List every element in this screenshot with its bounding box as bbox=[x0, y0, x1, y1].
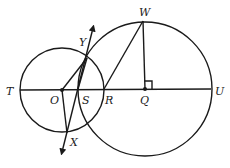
label-w: W bbox=[139, 6, 152, 19]
label-s: S bbox=[82, 94, 90, 107]
label-x: X bbox=[69, 136, 79, 149]
label-q: Q bbox=[140, 94, 149, 107]
label-u: U bbox=[215, 85, 225, 98]
line-tu bbox=[20, 89, 211, 90]
label-o: O bbox=[50, 94, 59, 107]
point-o bbox=[60, 88, 64, 92]
geometry-diagram: T O S R Q U W Y X bbox=[0, 0, 230, 168]
label-r: R bbox=[104, 94, 113, 107]
segment-ox bbox=[62, 90, 67, 133]
label-t: T bbox=[6, 85, 15, 98]
segment-oy bbox=[62, 58, 87, 90]
segment-wq bbox=[143, 21, 145, 89]
point-q bbox=[143, 87, 147, 91]
label-y: Y bbox=[79, 36, 88, 49]
